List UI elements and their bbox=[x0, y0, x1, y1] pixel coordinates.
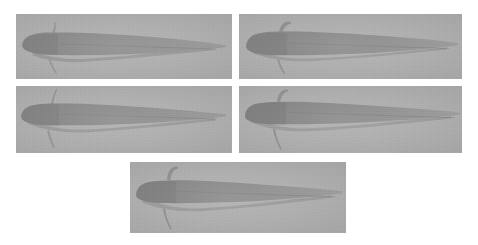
specimen-image-2 bbox=[239, 14, 462, 79]
specimen-panel-5[interactable] bbox=[130, 162, 346, 233]
specimen-panel-1[interactable] bbox=[16, 14, 232, 79]
specimen-image-5 bbox=[130, 162, 346, 233]
figure-root bbox=[0, 0, 478, 245]
specimen-panel-4[interactable] bbox=[239, 86, 462, 153]
specimen-panel-2[interactable] bbox=[239, 14, 462, 79]
specimen-image-3 bbox=[16, 86, 232, 153]
specimen-panel-3[interactable] bbox=[16, 86, 232, 153]
specimen-image-4 bbox=[239, 86, 462, 153]
specimen-image-1 bbox=[16, 14, 232, 79]
